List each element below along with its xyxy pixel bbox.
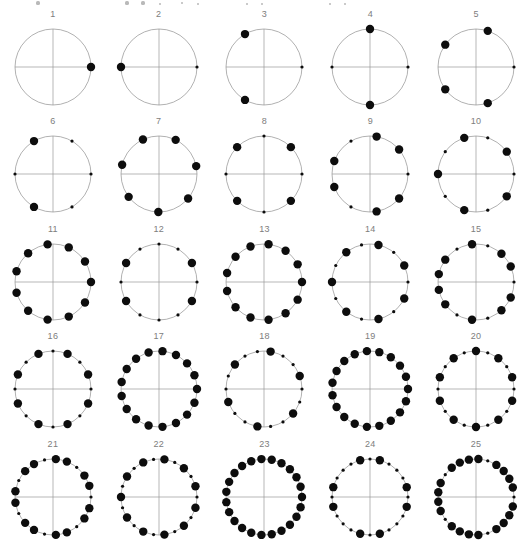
root-dot-large (254, 422, 262, 430)
root-dot-large (63, 420, 71, 428)
root-dot-large (231, 516, 239, 524)
root-dot-large (80, 514, 88, 522)
root-dot-small (407, 495, 410, 498)
root-dot-large (373, 133, 381, 141)
circle-panel: 3 (212, 9, 318, 116)
root-dot-small (132, 524, 135, 527)
panel-number-label: 19 (317, 331, 423, 342)
root-dot-small (444, 150, 447, 153)
root-dot-large (52, 530, 60, 538)
root-dot-large (191, 503, 199, 511)
root-dot-small (350, 528, 353, 531)
root-dot-large (329, 502, 337, 510)
root-dot-small (350, 140, 353, 143)
root-dot-small (486, 424, 489, 427)
root-dot-small (195, 495, 198, 498)
root-dot-large (387, 417, 395, 425)
root-dot-large (441, 85, 449, 93)
panel-number-label: 16 (0, 331, 106, 342)
panel-number-label: 14 (317, 224, 423, 235)
root-dot-large (223, 269, 231, 277)
root-dot-small (244, 355, 247, 358)
circle-diagram (429, 127, 523, 221)
root-dot-large (12, 267, 20, 275)
root-dot-large (484, 27, 492, 35)
root-dot-large (117, 378, 125, 386)
root-dot-small (176, 247, 179, 250)
root-dot-small (189, 474, 192, 477)
root-dot-large (329, 391, 337, 399)
root-dot-large (441, 40, 449, 48)
root-dot-small (512, 65, 515, 68)
root-dot-small (334, 297, 337, 300)
root-dot-large (14, 400, 22, 408)
root-dot-large (265, 315, 273, 323)
root-dot-large (436, 373, 444, 381)
root-dot-large (404, 385, 412, 393)
root-dot-large (492, 524, 500, 532)
circle-diagram (6, 20, 100, 114)
root-dot-large (450, 416, 458, 424)
root-dot-small (43, 532, 46, 535)
circle-diagram (112, 127, 206, 221)
root-dot-large (294, 260, 302, 268)
root-dot-small (173, 460, 176, 463)
root-dot-large (160, 455, 168, 463)
root-dot-large (356, 456, 364, 464)
root-dot-large (238, 523, 246, 531)
root-dot-small (89, 173, 92, 176)
artifact-dot (36, 1, 39, 4)
circle-panel-grid: 1234567891011121314151617181920212223242… (0, 9, 529, 546)
root-dot-large (138, 136, 146, 144)
circle-diagram (112, 342, 206, 436)
root-dot-large (434, 497, 442, 505)
root-dot-large (395, 146, 403, 154)
panel-number-label: 2 (106, 9, 212, 20)
root-dot-small (24, 361, 27, 364)
root-dot-small (152, 457, 155, 460)
root-dot-large (286, 520, 294, 528)
root-dot-small (13, 173, 16, 176)
root-dot-large (231, 361, 239, 369)
root-dot-large (494, 416, 502, 424)
root-dot-large (24, 249, 32, 257)
root-dot-large (267, 348, 275, 356)
root-dot-large (508, 397, 516, 405)
root-dot-large (375, 315, 383, 323)
root-dot-large (441, 255, 449, 263)
root-dot-large (116, 492, 124, 500)
circle-panel: 20 (423, 331, 529, 438)
circle-panel: 19 (317, 331, 423, 438)
root-dot-large (34, 350, 42, 358)
root-dot-small (336, 476, 339, 479)
root-dot-large (85, 504, 93, 512)
root-dot-small (463, 424, 466, 427)
circle-panel: 5 (423, 9, 529, 116)
root-dot-small (436, 388, 439, 391)
panel-number-label: 13 (212, 224, 318, 235)
root-dot-large (503, 193, 511, 201)
root-dot-large (123, 472, 131, 480)
root-dot-small (225, 173, 228, 176)
root-dot-large (144, 348, 152, 356)
root-dot-small (119, 280, 122, 283)
root-dot-large (122, 405, 130, 413)
root-dot-large (293, 473, 301, 481)
root-dot-large (287, 197, 295, 205)
root-dot-large (233, 143, 241, 151)
root-dot-large (122, 365, 130, 373)
circle-diagram (217, 127, 311, 221)
root-dot-small (234, 412, 237, 415)
root-dot-large (258, 454, 266, 462)
root-dot-small (263, 135, 266, 138)
root-dot-large (460, 206, 468, 214)
root-dot-large (87, 63, 95, 71)
root-dot-large (225, 508, 233, 516)
root-dot-large (43, 240, 51, 248)
circle-panel: 6 (0, 116, 106, 223)
circle-panel: 15 (423, 224, 529, 331)
circle-diagram (112, 450, 206, 544)
circle-diagram (323, 127, 417, 221)
root-dot-large (282, 246, 290, 254)
root-dot-large (508, 373, 516, 381)
